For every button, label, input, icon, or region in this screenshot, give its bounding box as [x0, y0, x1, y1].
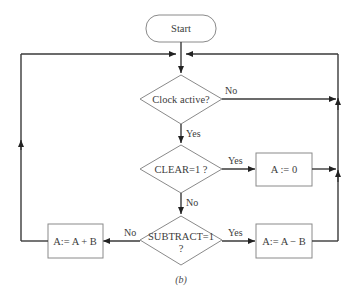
subtract-yes-label: Yes	[228, 227, 243, 238]
start-node: Start	[146, 15, 216, 42]
figure-caption: (b)	[175, 274, 187, 286]
clear-label: CLEAR=1 ?	[155, 164, 208, 175]
clock-active-decision: Clock active?	[140, 75, 222, 124]
clear-no-label: No	[186, 197, 198, 208]
a-zero-label: A := 0	[271, 164, 297, 175]
subtract-label-line2: ?	[179, 243, 184, 254]
start-label: Start	[171, 23, 191, 34]
subtract-decision: SUBTRACT=1 ?	[140, 216, 222, 265]
a-plus-b-process: A:= A + B	[48, 224, 103, 258]
a-plus-b-label: A:= A + B	[53, 236, 97, 247]
clock-active-label: Clock active?	[152, 94, 210, 105]
a-zero-process: A := 0	[256, 153, 312, 186]
clock-no-label: No	[225, 85, 237, 96]
a-minus-b-label: A:= A − B	[262, 236, 306, 247]
a-minus-b-process: A:= A − B	[256, 224, 312, 258]
clock-yes-label: Yes	[186, 128, 201, 139]
flowchart: Start Clock active? No Yes CLEAR=1 ? Yes…	[0, 0, 356, 304]
subtract-label-line1: SUBTRACT=1	[148, 231, 214, 242]
clear-yes-label: Yes	[228, 155, 243, 166]
subtract-no-label: No	[124, 227, 136, 238]
clear-decision: CLEAR=1 ?	[140, 145, 222, 193]
